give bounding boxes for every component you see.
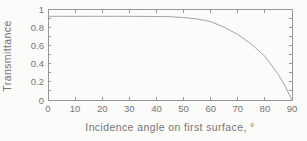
y-tick-label: 0 [39, 95, 44, 106]
x-tick-label: 0 [45, 103, 50, 114]
y-tick-label: 0.6 [31, 40, 44, 51]
chart-canvas: 010203040506070809000.20.40.60.81 Incide… [0, 0, 307, 141]
transmittance-chart: 010203040506070809000.20.40.60.81 Incide… [0, 0, 307, 141]
y-axis-label: Transmittance [1, 20, 13, 91]
x-tick-label: 60 [205, 103, 216, 114]
x-tick-label: 20 [97, 103, 108, 114]
y-tick-label: 0.4 [31, 58, 44, 69]
x-tick-label: 50 [178, 103, 189, 114]
y-tick-label: 0.2 [31, 76, 44, 87]
plot-area: 010203040506070809000.20.40.60.81 [31, 4, 298, 115]
x-tick-label: 40 [151, 103, 162, 114]
curve-transmittance [48, 16, 292, 100]
y-tick-label: 0.8 [31, 22, 44, 33]
x-tick-label: 30 [124, 103, 135, 114]
x-tick-label: 80 [260, 103, 271, 114]
plot-box [48, 9, 292, 100]
x-tick-label: 70 [232, 103, 243, 114]
y-tick-label: 1 [39, 4, 44, 15]
x-axis-label: Incidence angle on first surface, ° [85, 121, 254, 133]
x-tick-label: 90 [287, 103, 298, 114]
x-tick-label: 10 [70, 103, 81, 114]
